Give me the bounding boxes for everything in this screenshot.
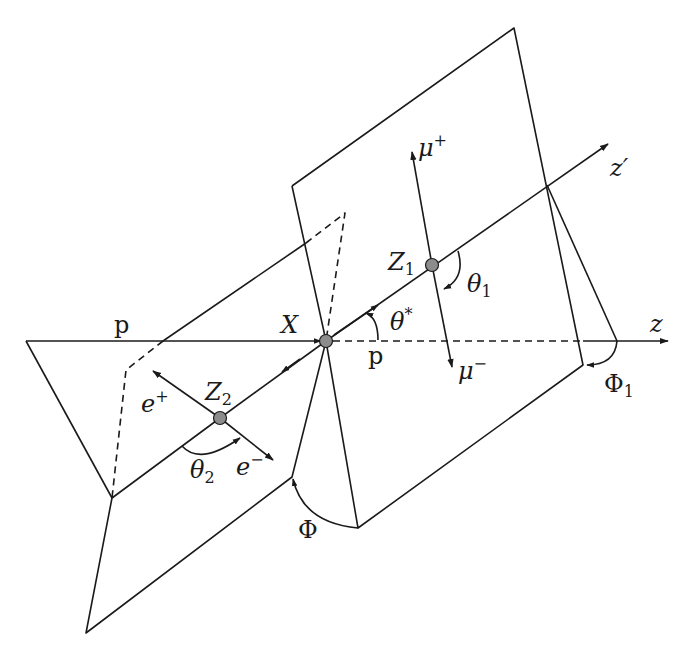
z-label: z bbox=[649, 310, 663, 338]
phi-label: Φ bbox=[298, 516, 318, 544]
mu-minus-label: μ− bbox=[458, 354, 487, 385]
x-vertex bbox=[320, 335, 333, 348]
beam-plane-left bbox=[26, 341, 112, 498]
e-plus-label: e+ bbox=[141, 387, 169, 418]
mu-plus-track bbox=[412, 152, 432, 265]
phi1-plane-edge bbox=[547, 185, 617, 341]
beam-left-label: p bbox=[114, 311, 129, 339]
z-prime-label: z′ bbox=[609, 154, 629, 182]
theta-star-arc bbox=[366, 313, 378, 340]
z1-vertex bbox=[426, 259, 439, 272]
theta2-label: θ2 bbox=[190, 456, 215, 487]
decay-angle-diagram: z′ z p p X Z1 Z2 μ+ μ− e+ e− θ* θ1 θ2 Φ … bbox=[0, 0, 692, 653]
mu-minus-track bbox=[432, 265, 452, 367]
hidden-edge-left bbox=[112, 341, 163, 498]
z2-direction-arrow bbox=[282, 359, 300, 372]
beam-right-label: p bbox=[368, 342, 383, 370]
z1-label: Z1 bbox=[387, 248, 415, 279]
theta1-label: θ1 bbox=[467, 270, 492, 301]
z1-direction-arrow bbox=[334, 305, 378, 335]
theta-star-label: θ* bbox=[390, 305, 412, 336]
phi1-label: Φ1 bbox=[604, 370, 634, 401]
z2-vertex bbox=[214, 412, 227, 425]
z2-label: Z2 bbox=[204, 378, 232, 409]
resonance-x-label: X bbox=[279, 311, 299, 339]
phi1-arc bbox=[587, 341, 617, 365]
mu-plus-label: μ+ bbox=[418, 131, 447, 162]
e-minus-label: e− bbox=[236, 450, 264, 481]
